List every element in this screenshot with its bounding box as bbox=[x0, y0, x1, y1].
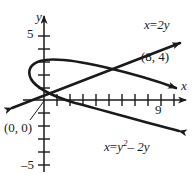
parabola-curve bbox=[29, 59, 179, 131]
y-axis-label: y bbox=[36, 10, 42, 23]
parabola-eq-tail: – 2y bbox=[127, 139, 149, 154]
line-equation-label: x=2y bbox=[144, 18, 169, 31]
line-eq-rhs: 2y bbox=[157, 17, 169, 32]
parabola-path bbox=[29, 59, 179, 131]
x-axis bbox=[23, 94, 186, 106]
x-axis-label: x bbox=[181, 79, 187, 92]
x-tick-label-9: 9 bbox=[155, 103, 162, 116]
y-tick-label-5: 5 bbox=[27, 27, 34, 40]
point-label-0-0: (0, 0) bbox=[4, 121, 32, 134]
graph-figure: 5 –5 9 y x x=2y x=y2– 2y (8, 4) (0, 0) bbox=[0, 0, 196, 179]
parabola-equation-label: x=y2– 2y bbox=[104, 139, 149, 153]
origin-leader-line bbox=[30, 101, 44, 120]
point-label-8-4: (8, 4) bbox=[141, 50, 169, 63]
y-tick-label-neg5: –5 bbox=[21, 158, 34, 171]
